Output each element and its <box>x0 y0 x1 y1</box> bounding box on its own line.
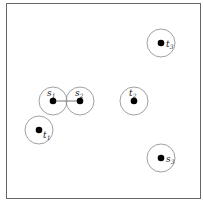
label-s2: s2 <box>75 88 84 99</box>
point-s3 <box>158 155 165 162</box>
diagram-canvas: s1s2t2t1t3s3 <box>0 0 203 201</box>
nodes-layer: s1s2t2t1t3s3 <box>25 29 175 172</box>
label-t3: t3 <box>166 39 174 50</box>
point-t1 <box>36 127 43 134</box>
node-t2: t2 <box>120 87 148 115</box>
node-s3: s3 <box>147 144 175 172</box>
diagram-frame <box>7 4 201 199</box>
label-t1: t1 <box>43 130 50 141</box>
label-s1: s1 <box>47 88 55 99</box>
node-t3: t3 <box>147 29 175 57</box>
label-s3: s3 <box>166 154 175 165</box>
label-t2: t2 <box>129 88 137 99</box>
point-t3 <box>158 40 165 47</box>
node-t1: t1 <box>25 116 53 144</box>
